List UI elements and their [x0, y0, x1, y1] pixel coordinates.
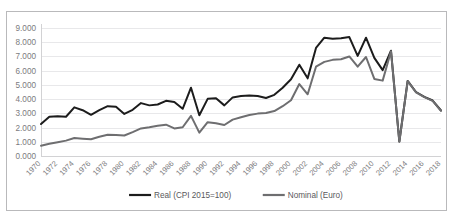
- chart-figure: 0.0001.0002.0003.0004.0005.0006.0007.000…: [0, 0, 454, 215]
- x-tick-label: 1970: [24, 159, 42, 177]
- x-tick-label: 2014: [391, 159, 409, 177]
- series-line: [41, 51, 441, 145]
- x-tick-label: 1994: [224, 159, 242, 177]
- x-tick-label: 1990: [191, 159, 209, 177]
- x-tick-label: 2008: [341, 159, 359, 177]
- x-tick-label: 1998: [257, 159, 275, 177]
- x-tick-label: 1972: [41, 159, 59, 177]
- y-tick-label: 5.000: [16, 81, 37, 90]
- chart-legend: Real (CPI 2015=100)Nominal (Euro): [129, 191, 343, 200]
- x-tick-label: 2004: [307, 159, 325, 177]
- x-tick-label: 1984: [141, 159, 159, 177]
- y-tick-label: 3.000: [16, 109, 37, 118]
- y-tick-label: 0.000: [16, 152, 37, 161]
- y-tick-label: 2.000: [16, 124, 37, 133]
- y-tick-label: 8.000: [16, 38, 37, 47]
- x-axis-tick-labels: 1970197219741976197819801982198419861988…: [24, 159, 442, 177]
- legend-label: Real (CPI 2015=100): [154, 191, 231, 200]
- y-tick-label: 6.000: [16, 67, 37, 76]
- x-tick-label: 1974: [57, 159, 75, 177]
- data-series: [41, 37, 441, 146]
- x-tick-label: 2002: [291, 159, 309, 177]
- y-axis-tick-labels: 0.0001.0002.0003.0004.0005.0006.0007.000…: [16, 24, 37, 161]
- x-tick-label: 1996: [241, 159, 259, 177]
- x-tick-label: 2016: [407, 159, 425, 177]
- x-tick-label: 1976: [74, 159, 92, 177]
- y-tick-label: 1.000: [16, 138, 37, 147]
- y-tick-label: 7.000: [16, 52, 37, 61]
- y-tick-label: 4.000: [16, 95, 37, 104]
- x-tick-label: 2010: [357, 159, 375, 177]
- chart-frame: 0.0001.0002.0003.0004.0005.0006.0007.000…: [6, 11, 447, 211]
- x-tick-label: 2012: [374, 159, 392, 177]
- x-tick-label: 1980: [107, 159, 125, 177]
- y-tick-label: 9.000: [16, 24, 37, 33]
- line-chart-plot: 0.0001.0002.0003.0004.0005.0006.0007.000…: [7, 12, 446, 210]
- x-tick-label: 1988: [174, 159, 192, 177]
- legend-label: Nominal (Euro): [288, 191, 343, 200]
- x-tick-label: 2000: [274, 159, 292, 177]
- x-tick-label: 1978: [91, 159, 109, 177]
- cut-off-header-text: [6, 0, 448, 5]
- x-tick-label: 1992: [207, 159, 225, 177]
- x-tick-label: 1982: [124, 159, 142, 177]
- series-line: [41, 37, 441, 141]
- x-tick-label: 2006: [324, 159, 342, 177]
- x-tick-label: 1986: [157, 159, 175, 177]
- x-tick-label: 2018: [424, 159, 442, 177]
